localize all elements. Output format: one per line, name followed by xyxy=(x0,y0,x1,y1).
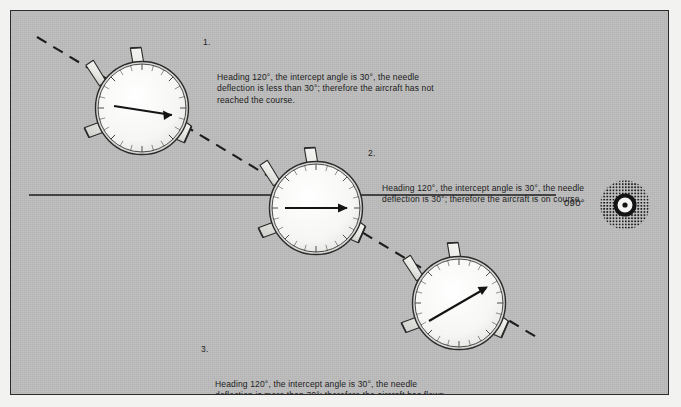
note-3-text: Heading 120°, the intercept angle is 30°… xyxy=(215,379,453,396)
note-1-text: Heading 120°, the intercept angle is 30°… xyxy=(217,72,453,107)
rmi-dial-1 xyxy=(96,62,189,155)
vor-intercept-figure: 090° 1. Heading 120°, the intercept angl… xyxy=(0,0,681,407)
rmi-dial-3 xyxy=(413,257,506,350)
note-1-number: 1. xyxy=(203,37,215,49)
rmi-dial-2 xyxy=(270,162,363,255)
note-3-number: 3. xyxy=(201,344,213,356)
note-3: 3. Heading 120°, the intercept angle is … xyxy=(201,344,453,395)
note-2: 2. Heading 120°, the intercept angle is … xyxy=(368,148,608,229)
aircraft-position-1 xyxy=(55,28,214,180)
note-1: 1. Heading 120°, the intercept angle is … xyxy=(203,37,453,129)
note-2-text: Heading 120°, the intercept angle is 30°… xyxy=(382,183,608,206)
figure-frame: 090° 1. Heading 120°, the intercept angl… xyxy=(10,10,669,395)
note-2-number: 2. xyxy=(368,148,380,160)
aircraft-position-2 xyxy=(229,128,388,280)
